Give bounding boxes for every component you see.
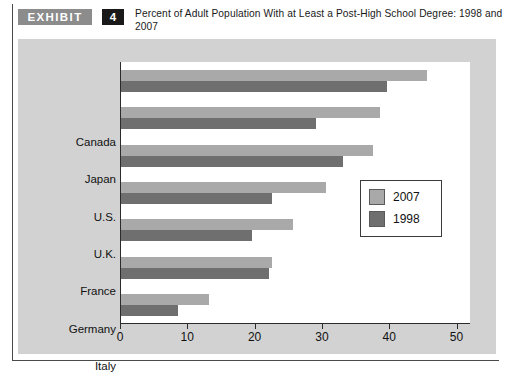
- exhibit-page: EXHIBIT 4 Percent of Adult Population Wi…: [0, 0, 511, 372]
- x-tick-mark: [322, 324, 323, 329]
- legend-swatch-icon: [369, 211, 385, 227]
- exhibit-title: Percent of Adult Population With at Leas…: [135, 7, 505, 33]
- category-label: Canada: [20, 136, 116, 148]
- bar-2007-france: [121, 219, 293, 230]
- x-tick-label: 30: [307, 330, 337, 344]
- legend-swatch-icon: [369, 189, 385, 205]
- category-label: Japan: [20, 173, 116, 185]
- bar-1998-canada: [121, 81, 387, 92]
- exhibit-badge: EXHIBIT: [18, 9, 92, 25]
- exhibit-header: EXHIBIT 4 Percent of Adult Population Wi…: [18, 7, 498, 39]
- bar-1998-uk: [121, 193, 272, 204]
- chart-legend: 20071998: [360, 180, 442, 237]
- x-tick-label: 10: [172, 330, 202, 344]
- x-tick-mark: [457, 324, 458, 329]
- category-label: Germany: [20, 323, 116, 335]
- bar-1998-us: [121, 156, 343, 167]
- category-label: U.K.: [20, 248, 116, 260]
- x-tick-label: 50: [442, 330, 472, 344]
- legend-label: 2007: [393, 189, 420, 205]
- x-tick-mark: [120, 324, 121, 329]
- category-label: France: [20, 285, 116, 297]
- legend-label: 1998: [393, 211, 420, 227]
- exhibit-number: 4: [102, 9, 124, 25]
- y-axis-category-labels: CanadaJapanU.S.U.K.FranceGermanyItaly: [14, 62, 116, 324]
- category-label: U.S.: [20, 211, 116, 223]
- x-tick-label: 20: [240, 330, 270, 344]
- x-tick-mark: [255, 324, 256, 329]
- bar-2007-uk: [121, 182, 326, 193]
- bar-2007-us: [121, 145, 373, 156]
- x-tick-label: 40: [374, 330, 404, 344]
- x-axis-line: [120, 323, 470, 324]
- bar-1998-france: [121, 230, 252, 241]
- bar-2007-canada: [121, 70, 427, 81]
- bar-2007-italy: [121, 294, 209, 305]
- bar-1998-italy: [121, 305, 178, 316]
- x-tick-mark: [187, 324, 188, 329]
- bar-1998-japan: [121, 118, 316, 129]
- bar-1998-germany: [121, 268, 269, 279]
- bar-2007-japan: [121, 107, 380, 118]
- bar-2007-germany: [121, 257, 272, 268]
- x-tick-mark: [389, 324, 390, 329]
- category-label: Italy: [20, 360, 116, 372]
- left-rule: [12, 4, 13, 361]
